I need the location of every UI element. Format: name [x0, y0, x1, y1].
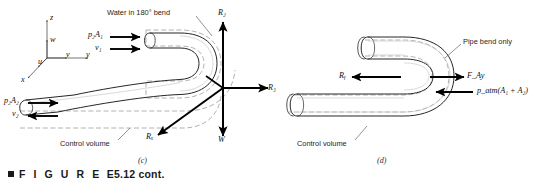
label-atmospheric-force: p_atm(A₁ + A₂) [477, 87, 528, 95]
label-outlet-velocity: v₂ [12, 110, 18, 118]
label-reaction-z: R₂ [218, 9, 226, 17]
label-pipe-bend-only: Pipe bend only [463, 38, 512, 45]
label-vel-v: v [66, 51, 70, 59]
label-axis-y: y [86, 51, 90, 59]
coordinate-axes-triad [28, 20, 88, 78]
label-axis-x: x [21, 76, 25, 84]
figure-e512-cont: Water in 180° bend p₂A₁ v₁ p₂A₂ v₂ Contr… [0, 0, 547, 188]
inlet-arrows-c [110, 37, 140, 49]
caption-word: F I G U R E [19, 168, 102, 180]
caption-square-marker [8, 171, 14, 177]
label-water-in-bend: Water in 180° bend [107, 9, 170, 16]
label-inlet-pressure-force: p₂A₁ [88, 31, 103, 39]
label-vel-u: u [38, 58, 42, 66]
panel-letter-c: (c) [138, 156, 147, 165]
label-outlet-pressure-force: p₂A₂ [4, 97, 19, 105]
label-axis-z: z [50, 14, 53, 22]
label-reaction-y-d: Rᵧ [339, 72, 346, 80]
panel-d-pipe-bend-only: Pipe bend only Rᵧ F_Ay p_atm(A₁ + A₂) Co… [273, 0, 547, 188]
force-arrows-d [352, 77, 473, 92]
leader-pipe-bend-only [445, 44, 461, 58]
leader-water-in-bend [196, 16, 212, 36]
control-volume-boundary-c [20, 30, 235, 128]
label-inlet-velocity: v₁ [95, 44, 101, 52]
control-volume-boundary-d [289, 40, 449, 112]
panel-c-water-in-bend: Water in 180° bend p₂A₁ v₁ p₂A₂ v₂ Contr… [0, 0, 285, 188]
label-vel-w: w [50, 36, 55, 44]
label-control-volume-d: Control volume [297, 140, 347, 147]
leader-control-volume-c [118, 128, 130, 140]
leader-control-volume-d [355, 126, 367, 140]
label-weight: W [218, 136, 225, 144]
label-reaction-x: Rₓ [146, 133, 153, 141]
figure-caption: F I G U R E E5.12 cont. [8, 168, 165, 180]
panel-letter-d: (d) [377, 156, 386, 165]
label-control-volume-c: Control volume [60, 140, 110, 147]
label-anchoring-force: F_Ay [467, 72, 484, 80]
caption-id: E5.12 cont. [107, 168, 165, 180]
